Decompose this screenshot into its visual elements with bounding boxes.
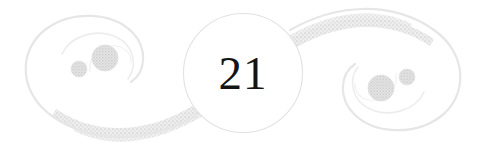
page-number: 21 (183, 13, 303, 133)
left-small-dot (71, 61, 87, 77)
right-large-dot (368, 75, 394, 101)
page-ornament-container: 21 (0, 0, 485, 155)
right-small-dot (399, 69, 415, 85)
left-large-dot (92, 45, 118, 71)
